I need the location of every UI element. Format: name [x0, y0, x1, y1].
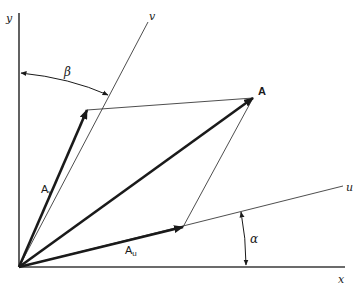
y-axis-label: y: [5, 12, 13, 25]
vector-a: [19, 98, 253, 267]
alpha-angle-arc: [241, 212, 246, 265]
v-axis-label: v: [149, 10, 156, 23]
vector-av-label: Av: [41, 183, 52, 197]
x-axis-label: x: [338, 273, 345, 286]
parallelogram-edge-av-to-a: [87, 98, 253, 110]
alpha-label: α: [250, 232, 258, 246]
vector-au: [19, 227, 183, 267]
vector-au-label: Au: [125, 244, 137, 258]
parallelogram-edge-au-to-a: [183, 98, 253, 227]
beta-label: β: [63, 65, 71, 79]
vector-au-label-subscript: u: [132, 249, 136, 258]
v-axis: [19, 22, 148, 267]
u-axis-label: u: [346, 181, 353, 194]
vector-decomposition-diagram: y x u v A Av Au β α: [0, 0, 362, 288]
vector-a-label: A: [258, 85, 266, 97]
vector-av-label-subscript: v: [48, 188, 52, 197]
